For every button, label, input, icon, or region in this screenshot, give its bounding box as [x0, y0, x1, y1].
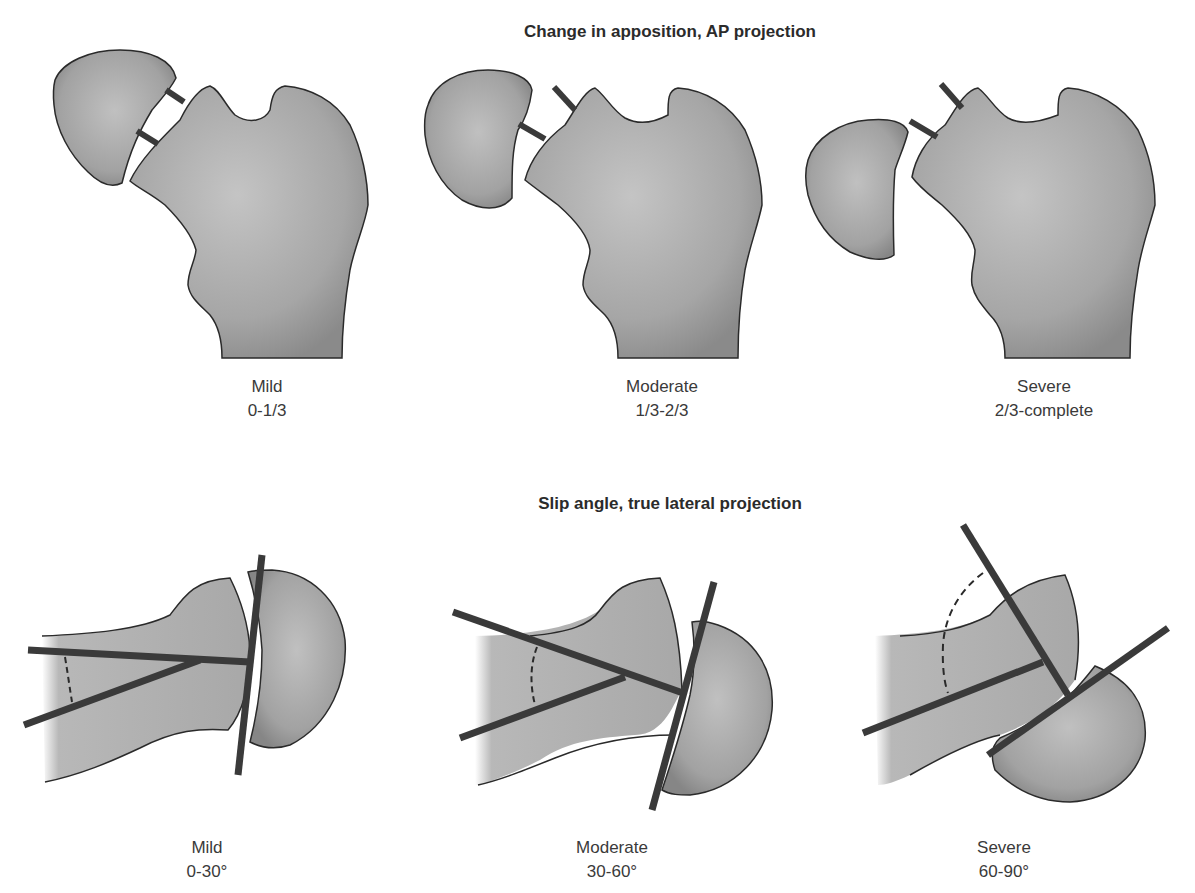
apposition-marker-lower: [137, 131, 158, 144]
femoral-head: [248, 570, 345, 748]
apposition-marker-upper: [554, 87, 575, 110]
grade-label: Mild: [157, 375, 377, 399]
grade-label: Moderate: [502, 836, 722, 860]
apposition-marker-upper: [166, 90, 184, 102]
apposition-marker-lower: [519, 124, 545, 139]
lateral-section-title: Slip angle, true lateral projection: [470, 494, 870, 514]
grade-label: Severe: [894, 836, 1114, 860]
femur-lateral-moderate: [453, 578, 772, 810]
range-label: 0-1/3: [157, 399, 377, 423]
range-label: 2/3-complete: [934, 399, 1154, 423]
femur-ap-mild: [53, 50, 368, 362]
femur-ap-severe: [806, 84, 1158, 362]
caption-lateral-severe: Severe 60-90°: [894, 836, 1114, 884]
caption-ap-severe: Severe 2/3-complete: [934, 375, 1154, 423]
illustration-canvas: [0, 0, 1195, 893]
femur-neck-shaft: [130, 86, 368, 358]
range-label: 30-60°: [502, 860, 722, 884]
caption-ap-moderate: Moderate 1/3-2/3: [552, 375, 772, 423]
ap-section-title: Change in apposition, AP projection: [470, 22, 870, 42]
apposition-marker-lower: [910, 121, 937, 137]
caption-ap-mild: Mild 0-1/3: [157, 375, 377, 423]
femoral-head: [806, 120, 908, 260]
grade-label: Moderate: [552, 375, 772, 399]
caption-lateral-moderate: Moderate 30-60°: [502, 836, 722, 884]
femur-neck-shaft: [525, 88, 762, 358]
grade-label: Mild: [97, 836, 317, 860]
grade-label: Severe: [934, 375, 1154, 399]
caption-lateral-mild: Mild 0-30°: [97, 836, 317, 884]
apposition-marker-upper: [941, 84, 962, 108]
femur-neck-shaft: [912, 88, 1155, 358]
femur-ap-moderate: [425, 70, 765, 362]
femur-lateral-severe: [863, 525, 1168, 802]
femur-lateral-mild: [24, 555, 345, 782]
femoral-head: [425, 70, 532, 208]
range-label: 60-90°: [894, 860, 1114, 884]
range-label: 1/3-2/3: [552, 399, 772, 423]
range-label: 0-30°: [97, 860, 317, 884]
